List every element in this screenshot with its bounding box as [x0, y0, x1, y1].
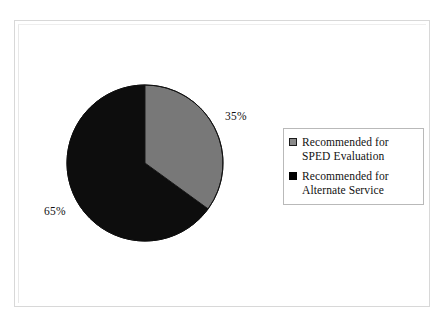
pie-label-alternate-percent: 65% [44, 205, 66, 217]
legend-label-alternate-service: Recommended for Alternate Service [302, 169, 418, 197]
pie-label-sped-percent: 35% [225, 110, 247, 122]
legend-label-line-1: Recommended for [302, 170, 389, 182]
legend-label-line-2: Evaluation [334, 150, 385, 162]
pie-chart-svg [64, 82, 226, 244]
legend-item-alternate-service[interactable]: Recommended for Alternate Service [289, 169, 418, 197]
legend-label-sped-evaluation: Recommended for SPED Evaluation [302, 135, 418, 163]
legend-label-line-2: Alternate Service [302, 184, 384, 196]
legend-swatch-black-square-icon [289, 172, 297, 180]
chart-legend: Recommended for SPED Evaluation Recommen… [283, 128, 424, 205]
chart-page: 35% 65% Recommended for SPED Evaluation … [0, 0, 445, 326]
pie-chart [64, 82, 226, 244]
legend-item-sped-evaluation[interactable]: Recommended for SPED Evaluation [289, 135, 418, 163]
legend-swatch-gray-square-icon [289, 138, 297, 146]
